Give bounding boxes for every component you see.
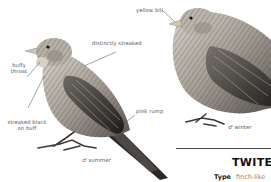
fact-value: finch-like <box>236 173 265 181</box>
caption-summer-male: ♂ summer <box>82 157 111 163</box>
annotation-distinctly-streaked: distinctly streaked <box>92 40 142 46</box>
bird-illustrations <box>0 0 271 182</box>
caption-winter-male: ♂ winter <box>228 124 252 130</box>
winter-male-bird <box>169 8 271 126</box>
annotation-pink-rump: pink rump <box>136 108 163 114</box>
annotation-streaked-black-on-buff: streaked black on buff <box>4 119 50 131</box>
fact-key: Type <box>214 173 231 181</box>
field-guide-plate: distinctly streaked buffy throat streake… <box>0 0 271 182</box>
annotation-yellow-bill: yellow bill <box>136 7 163 13</box>
fact-row-type: Typefinch-like <box>214 173 265 181</box>
species-title: TWITE <box>232 156 271 169</box>
annotation-buffy-throat: buffy throat <box>6 62 32 74</box>
section-divider <box>176 148 271 149</box>
